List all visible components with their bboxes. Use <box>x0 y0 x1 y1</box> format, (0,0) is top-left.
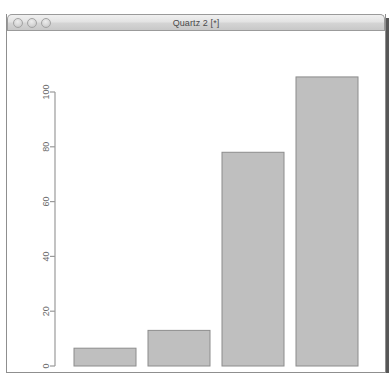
y-axis-tick-label: 60 <box>41 197 51 207</box>
plot-canvas: 020406080100 <box>7 31 385 372</box>
y-axis-tick-label: 20 <box>41 306 51 316</box>
y-axis-tick-label: 100 <box>41 84 51 99</box>
y-axis-tick-label: 40 <box>41 251 51 261</box>
y-axis-tick-label: 80 <box>41 142 51 152</box>
window-shadow <box>386 14 392 373</box>
bar <box>222 152 284 366</box>
bar <box>296 77 358 366</box>
quartz-window[interactable]: Quartz 2 [*] 020406080100 <box>6 14 386 373</box>
background-strip <box>0 0 392 14</box>
bar-chart: 020406080100 <box>7 31 385 372</box>
bar <box>148 330 210 366</box>
window-titlebar[interactable]: Quartz 2 [*] <box>7 14 385 31</box>
y-axis-tick-label: 0 <box>41 363 51 368</box>
window-title: Quartz 2 [*] <box>8 18 384 28</box>
desktop-background: Quartz 2 [*] 020406080100 <box>0 0 392 373</box>
bar <box>74 348 136 366</box>
